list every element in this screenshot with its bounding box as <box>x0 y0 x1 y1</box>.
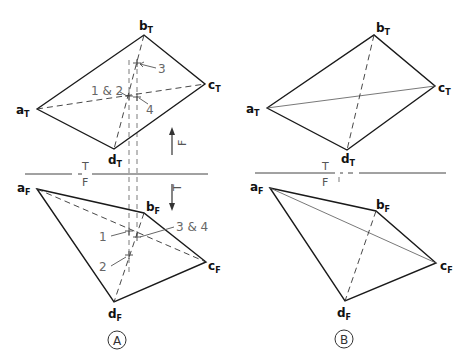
caption-b: B <box>335 330 353 348</box>
fold-label-f: F <box>82 176 88 189</box>
hidden-edge-bd-front <box>345 211 376 301</box>
vertex-label-d-top: dT <box>341 152 356 168</box>
panel-b-top-view: aT bT cT dT <box>246 21 451 168</box>
arrow-label-f: F <box>176 140 189 146</box>
point-2-marker <box>125 251 133 259</box>
orthographic-visibility-diagram: 1 & 2 3 4 aT bT cT dT F T F <box>0 0 467 360</box>
arrow-label-t: T <box>171 184 184 192</box>
label-1-and-2: 1 & 2 <box>91 84 123 98</box>
caption-a: A <box>108 331 126 349</box>
point-3-4-marker <box>133 233 141 241</box>
caption-b-label: B <box>340 333 348 347</box>
vertex-label-a-top: aT <box>246 102 260 118</box>
pointer-2 <box>111 257 126 266</box>
label-1: 1 <box>99 230 107 244</box>
label-4: 4 <box>146 103 154 117</box>
viewing-arrow-f-up-icon <box>169 127 175 155</box>
pointer-1 <box>111 232 126 236</box>
fold-label-f: F <box>322 176 328 189</box>
vertex-label-c-front: cF <box>208 259 221 275</box>
fold-label-t: T <box>321 160 329 173</box>
panel-b-front-view: aF bF cF dF <box>250 180 453 322</box>
vertex-label-b-top: bT <box>376 21 391 37</box>
vertex-label-b-top: bT <box>139 19 154 35</box>
vertex-label-a-top: aT <box>16 103 30 119</box>
panel-a-top-view: 1 & 2 3 4 aT bT cT dT F <box>16 19 221 169</box>
front-view-outline <box>270 188 436 301</box>
label-2: 2 <box>99 260 107 274</box>
label-3-and-4: 3 & 4 <box>176 220 208 234</box>
vertex-label-d-front: dF <box>108 307 122 323</box>
vertex-label-c-top: cT <box>208 78 221 94</box>
fold-label-t: T <box>81 160 89 173</box>
panel-a: 1 & 2 3 4 aT bT cT dT F T F <box>16 19 221 349</box>
vertex-label-b-front: bF <box>146 200 160 216</box>
label-3: 3 <box>158 62 166 76</box>
front-view-outline <box>37 189 206 302</box>
caption-a-label: A <box>113 334 122 348</box>
vertex-label-d-front: dF <box>337 306 351 322</box>
panel-a-front-view: 1 2 3 & 4 aF bF cF dF T <box>17 181 221 323</box>
vertex-label-c-top: cT <box>438 81 451 97</box>
vertex-label-c-front: cF <box>440 259 453 275</box>
vertex-label-b-front: bF <box>376 198 390 214</box>
vertex-label-d-top: dT <box>108 153 123 169</box>
vertex-label-a-front: aF <box>17 181 31 197</box>
point-1-marker <box>125 227 133 235</box>
panel-b: aT bT cT dT T F aF bF cF dF B <box>246 21 453 348</box>
vertex-label-a-front: aF <box>250 180 264 196</box>
